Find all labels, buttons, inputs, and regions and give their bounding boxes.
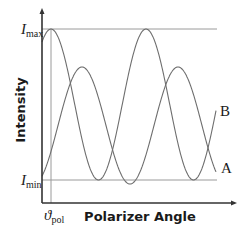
- imin-label: Imin: [20, 172, 42, 190]
- polarization-intensity-chart: Imax Imin ϑpol Intensity Polarizer Angle…: [0, 0, 246, 241]
- polarizer-angle-tick-label: ϑpol: [44, 207, 64, 225]
- series-a-curve: [42, 29, 216, 180]
- y-axis-arrow-icon: [40, 8, 45, 14]
- series-b-label: B: [220, 103, 230, 119]
- x-axis-title: Polarizer Angle: [84, 209, 196, 224]
- x-axis-arrow-icon: [231, 201, 237, 206]
- y-axis-title: Intensity: [13, 77, 28, 143]
- imax-label: Imax: [20, 21, 43, 39]
- series-b-curve: [42, 67, 216, 184]
- series-a-label: A: [221, 160, 232, 176]
